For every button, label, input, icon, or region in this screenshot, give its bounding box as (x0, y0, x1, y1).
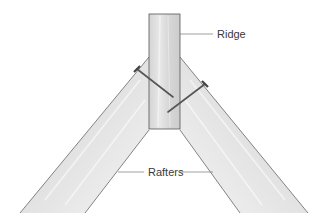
rafter-ridge-diagram (0, 0, 318, 224)
rafters-label: Rafters (148, 167, 183, 178)
ridge-board (149, 14, 180, 129)
left-rafter (20, 57, 149, 213)
right-rafter (180, 57, 308, 213)
ridge-label: Ridge (217, 29, 246, 40)
